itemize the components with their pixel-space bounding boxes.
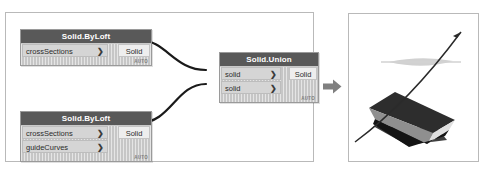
input-port-label: crossSections bbox=[26, 47, 73, 56]
node-solid-byloft-2[interactable]: Solid.ByLoft crossSections ❯ Solid bbox=[20, 111, 152, 162]
input-port-crosssections[interactable]: crossSections ❯ bbox=[22, 44, 108, 57]
port-connector-icon bbox=[316, 72, 317, 78]
input-port-solid-2[interactable]: solid ❯ bbox=[221, 81, 281, 94]
input-port-label: solid bbox=[225, 70, 240, 79]
node-auto-badge: AUTO bbox=[134, 155, 148, 160]
port-row: solid ❯ Solid bbox=[220, 67, 318, 80]
output-port-solid[interactable]: Solid bbox=[289, 67, 317, 80]
chevron-right-icon[interactable]: ❯ bbox=[97, 127, 104, 139]
output-port-solid[interactable]: Solid bbox=[118, 126, 150, 139]
port-row: guideCurves ❯ bbox=[21, 140, 151, 153]
port-connector-icon bbox=[22, 145, 23, 151]
port-connector-icon bbox=[149, 131, 150, 137]
node-title: Solid.ByLoft bbox=[21, 112, 151, 125]
node-body: crossSections ❯ Solid guideCurves ❯ bbox=[21, 126, 151, 161]
input-port-label: solid bbox=[225, 84, 240, 93]
output-port-solid[interactable]: Solid bbox=[118, 44, 150, 57]
guide-curve-arrow-icon bbox=[453, 32, 461, 38]
port-connector-icon bbox=[22, 131, 23, 137]
input-port-guidecurves[interactable]: guideCurves ❯ bbox=[22, 140, 108, 153]
port-row: crossSections ❯ Solid bbox=[21, 44, 151, 57]
result-arrow-icon bbox=[323, 79, 342, 94]
input-port-crosssections[interactable]: crossSections ❯ bbox=[22, 126, 108, 139]
screenshot-root: Solid.ByLoft crossSections ❯ Solid AUTO bbox=[0, 0, 488, 171]
3d-scene bbox=[349, 14, 480, 163]
output-port-label: Solid bbox=[126, 129, 143, 138]
port-connector-icon bbox=[149, 49, 150, 55]
port-row: crossSections ❯ Solid bbox=[21, 126, 151, 139]
node-auto-badge: AUTO bbox=[134, 59, 148, 64]
3d-preview-panel[interactable] bbox=[348, 13, 479, 162]
chevron-right-icon[interactable]: ❯ bbox=[97, 45, 104, 57]
port-connector-icon bbox=[221, 86, 222, 92]
chevron-right-icon[interactable]: ❯ bbox=[97, 141, 104, 153]
node-title: Solid.Union bbox=[220, 53, 318, 66]
arrow-shape bbox=[323, 80, 342, 94]
node-auto-badge: AUTO bbox=[301, 96, 315, 101]
node-body: solid ❯ Solid solid ❯ AUTO bbox=[220, 67, 318, 102]
output-port-label: Solid bbox=[295, 70, 312, 79]
input-port-solid-1[interactable]: solid ❯ bbox=[221, 67, 281, 80]
output-port-label: Solid bbox=[126, 47, 143, 56]
chevron-right-icon[interactable]: ❯ bbox=[270, 68, 277, 80]
port-connector-icon bbox=[221, 72, 222, 78]
port-row: solid ❯ bbox=[220, 81, 318, 94]
dynamo-graph-panel[interactable]: Solid.ByLoft crossSections ❯ Solid AUTO bbox=[5, 12, 314, 162]
port-connector-icon bbox=[22, 49, 23, 55]
input-port-label: guideCurves bbox=[26, 143, 68, 152]
node-body: crossSections ❯ Solid AUTO bbox=[21, 44, 151, 65]
node-solid-union[interactable]: Solid.Union solid ❯ Solid bbox=[219, 52, 319, 103]
node-title: Solid.ByLoft bbox=[21, 30, 151, 43]
input-port-label: crossSections bbox=[26, 129, 73, 138]
node-solid-byloft-1[interactable]: Solid.ByLoft crossSections ❯ Solid AUTO bbox=[20, 29, 152, 66]
chevron-right-icon[interactable]: ❯ bbox=[270, 82, 277, 94]
